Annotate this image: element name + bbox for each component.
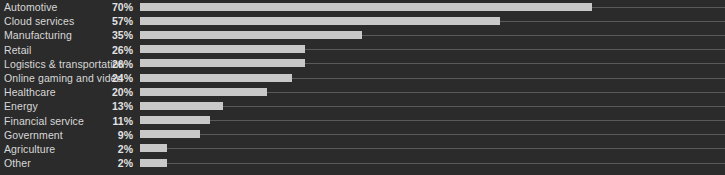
bar-category-label: Retail bbox=[4, 43, 31, 57]
bar-row: Online gaming and video24% bbox=[0, 71, 725, 85]
bar-row: Government9% bbox=[0, 128, 725, 142]
bar-value-label: 26% bbox=[88, 57, 133, 71]
bar-category-label: Government bbox=[4, 128, 63, 142]
bar-category-label: Other bbox=[4, 156, 31, 170]
bar-category-label: Agriculture bbox=[4, 142, 55, 156]
bar-row: Energy13% bbox=[0, 99, 725, 113]
bar-row: Agriculture2% bbox=[0, 142, 725, 156]
bar-fill bbox=[140, 130, 200, 138]
bar-fill bbox=[140, 88, 267, 96]
bar-row: Other2% bbox=[0, 156, 725, 170]
bar-category-label: Automotive bbox=[4, 0, 58, 14]
bar-chart-rows: Automotive70%Cloud services57%Manufactur… bbox=[0, 0, 725, 170]
bar-track bbox=[140, 134, 725, 135]
bar-category-label: Financial service bbox=[4, 114, 84, 128]
bar-fill bbox=[140, 45, 305, 53]
bar-fill bbox=[140, 3, 592, 11]
bar-value-label: 13% bbox=[88, 99, 133, 113]
bar-fill bbox=[140, 102, 223, 110]
bar-fill bbox=[140, 144, 167, 152]
bar-value-label: 24% bbox=[88, 71, 133, 85]
bar-category-label: Manufacturing bbox=[4, 28, 72, 42]
bar-track bbox=[140, 163, 725, 164]
bar-row: Cloud services57% bbox=[0, 14, 725, 28]
bar-track bbox=[140, 106, 725, 107]
bar-fill bbox=[140, 74, 292, 82]
bar-value-label: 11% bbox=[88, 114, 133, 128]
bar-track bbox=[140, 148, 725, 149]
bar-row: Healthcare20% bbox=[0, 85, 725, 99]
bar-category-label: Healthcare bbox=[4, 85, 56, 99]
bar-category-label: Cloud services bbox=[4, 14, 74, 28]
bar-row: Retail26% bbox=[0, 43, 725, 57]
bar-fill bbox=[140, 59, 305, 67]
bar-value-label: 20% bbox=[88, 85, 133, 99]
bar-fill bbox=[140, 159, 167, 167]
bar-value-label: 35% bbox=[88, 28, 133, 42]
bar-value-label: 2% bbox=[88, 142, 133, 156]
bar-row: Automotive70% bbox=[0, 0, 725, 14]
bar-row: Logistics & transportation26% bbox=[0, 57, 725, 71]
bar-value-label: 57% bbox=[88, 14, 133, 28]
bar-category-label: Energy bbox=[4, 99, 38, 113]
bar-row: Financial service11% bbox=[0, 114, 725, 128]
bar-value-label: 9% bbox=[88, 128, 133, 142]
bar-chart: Automotive70%Cloud services57%Manufactur… bbox=[0, 0, 725, 175]
bar-value-label: 2% bbox=[88, 156, 133, 170]
bar-track bbox=[140, 120, 725, 121]
bar-fill bbox=[140, 31, 362, 39]
bar-row: Manufacturing35% bbox=[0, 28, 725, 42]
bar-fill bbox=[140, 17, 500, 25]
bar-value-label: 70% bbox=[88, 0, 133, 14]
bar-value-label: 26% bbox=[88, 43, 133, 57]
bar-fill bbox=[140, 116, 210, 124]
